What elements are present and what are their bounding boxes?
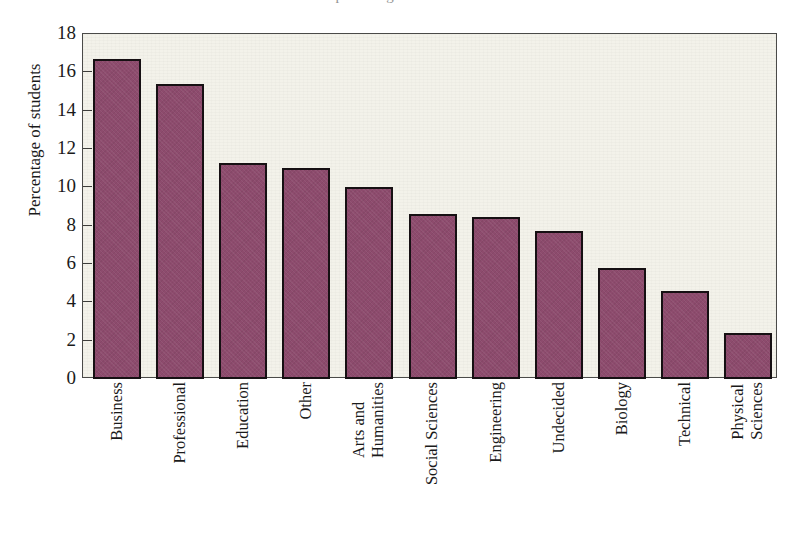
bar: [598, 268, 646, 379]
bars-layer: [83, 34, 778, 379]
y-tick-mark: [83, 110, 92, 111]
y-tick-mark: [83, 71, 92, 72]
y-tick-label: 4: [36, 291, 76, 310]
bar: [156, 84, 204, 379]
y-tick-label: 10: [36, 176, 76, 195]
plot-area: [82, 33, 777, 378]
y-tick-mark: [83, 225, 92, 226]
y-tick-label: 8: [36, 215, 76, 234]
x-tick-label: Technical: [653, 382, 716, 532]
y-tick-label: 16: [36, 61, 76, 80]
x-tick-label: PhysicalSciences: [716, 382, 779, 532]
y-axis-tick-marks: [83, 33, 93, 378]
bar-chart-figure: percentage of students Percentage of stu…: [0, 0, 805, 537]
y-tick-mark: [83, 148, 92, 149]
y-tick-label: 14: [36, 100, 76, 119]
x-tick-label: Business: [84, 382, 147, 532]
x-tick-label: Education: [210, 382, 273, 532]
bar: [535, 231, 583, 379]
x-tick-label-line: Humanities: [368, 382, 387, 458]
y-tick-label: 2: [36, 330, 76, 349]
x-tick-label-line: Sciences: [747, 382, 766, 440]
bar: [282, 168, 330, 379]
y-tick-label: 18: [36, 23, 76, 42]
y-tick-label: 0: [36, 368, 76, 387]
bar: [219, 163, 267, 379]
bar: [409, 214, 457, 379]
y-tick-label: 12: [36, 138, 76, 157]
y-axis-tick-labels: 024681012141618: [28, 33, 76, 378]
bar: [724, 333, 772, 379]
y-tick-mark: [83, 186, 92, 187]
x-tick-label: Social Sciences: [400, 382, 463, 532]
x-tick-label-line: Arts and: [349, 402, 368, 458]
x-axis-category-labels: BusinessProfessionalEducationOtherArts a…: [82, 382, 777, 532]
x-tick-label: Undecided: [526, 382, 589, 532]
bar: [472, 217, 520, 379]
x-tick-label: Arts andHumanities: [337, 382, 400, 532]
x-tick-label: Other: [274, 382, 337, 532]
x-tick-label-line: Physical: [728, 384, 747, 440]
bar: [345, 187, 393, 379]
bar: [93, 59, 141, 379]
x-tick-label: Professional: [147, 382, 210, 532]
y-tick-mark: [83, 263, 92, 264]
bar: [661, 291, 709, 379]
clipped-chart-title: percentage of students: [0, 0, 805, 3]
y-tick-mark: [83, 301, 92, 302]
y-tick-mark: [83, 340, 92, 341]
y-tick-label: 6: [36, 253, 76, 272]
x-tick-label: Biology: [589, 382, 652, 532]
x-tick-label: Engineering: [463, 382, 526, 532]
